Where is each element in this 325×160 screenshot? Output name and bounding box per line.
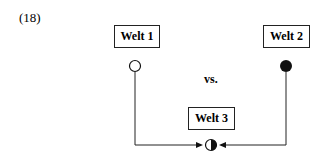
diagram-connectors bbox=[0, 0, 325, 160]
open-circle-icon bbox=[130, 61, 141, 72]
filled-circle-icon bbox=[280, 60, 292, 72]
arrowhead-left-icon bbox=[219, 142, 226, 148]
example-number: (18) bbox=[19, 10, 41, 26]
world2-box: Welt 2 bbox=[263, 25, 310, 48]
world1-box: Welt 1 bbox=[114, 25, 160, 48]
arrowhead-right-icon bbox=[196, 142, 203, 148]
world3-box: Welt 3 bbox=[188, 107, 235, 130]
versus-label: vs. bbox=[204, 72, 218, 87]
half-filled-circle-icon bbox=[206, 140, 217, 151]
